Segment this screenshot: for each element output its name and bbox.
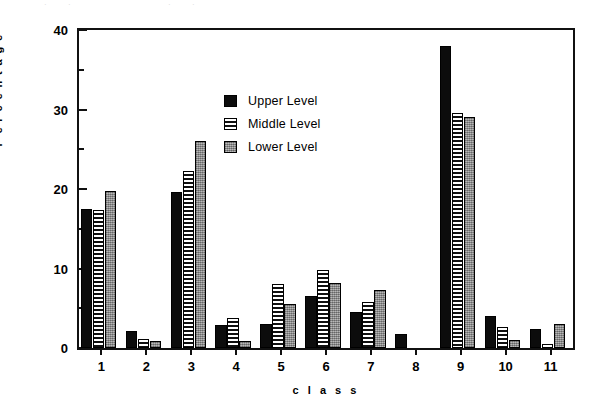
bar-group bbox=[485, 30, 521, 348]
x-tick-mark bbox=[145, 348, 147, 355]
x-tick-mark bbox=[460, 348, 462, 355]
bar bbox=[554, 324, 566, 348]
scan-artifact-mark: · bbox=[44, 0, 47, 9]
bar-group bbox=[395, 30, 431, 348]
legend-label: Middle Level bbox=[248, 117, 321, 131]
x-tick-label: 2 bbox=[143, 359, 150, 374]
chart-figure: ­···· P e r c e n t a g e 01020304012345… bbox=[0, 0, 595, 413]
bar bbox=[530, 329, 542, 348]
bar-group bbox=[260, 30, 296, 348]
legend: Upper LevelMiddle LevelLower Level bbox=[224, 94, 321, 154]
x-tick-label: 3 bbox=[188, 359, 195, 374]
bar bbox=[395, 334, 407, 348]
bar-group bbox=[215, 30, 251, 348]
legend-swatch-icon bbox=[224, 95, 237, 107]
legend-label: Upper Level bbox=[248, 94, 318, 108]
bar bbox=[126, 331, 138, 348]
bar bbox=[485, 316, 497, 348]
bar bbox=[464, 117, 476, 348]
x-tick-label: 1 bbox=[98, 359, 105, 374]
bar bbox=[272, 284, 284, 348]
x-tick-label: 10 bbox=[498, 359, 512, 374]
y-tick-label: 40 bbox=[21, 23, 79, 38]
bar bbox=[81, 209, 93, 348]
bar bbox=[350, 312, 362, 348]
bar bbox=[362, 302, 374, 348]
bar bbox=[284, 304, 296, 348]
bar bbox=[215, 325, 227, 348]
bar bbox=[329, 283, 341, 348]
y-axis-title: P e r c e n t a g e bbox=[0, 30, 4, 150]
bar-group bbox=[305, 30, 341, 348]
plot-frame: 0102030401234567891011 bbox=[77, 28, 575, 350]
bar bbox=[317, 270, 329, 348]
bar bbox=[542, 344, 554, 348]
x-tick-mark bbox=[505, 348, 507, 355]
legend-swatch-icon bbox=[224, 118, 237, 130]
x-axis-title: c l a s s bbox=[77, 384, 575, 396]
y-tick-label: 10 bbox=[21, 261, 79, 276]
x-tick-mark bbox=[370, 348, 372, 355]
x-tick-label: 8 bbox=[412, 359, 419, 374]
x-tick-mark bbox=[280, 348, 282, 355]
x-tick-mark bbox=[190, 348, 192, 355]
bar bbox=[183, 171, 195, 348]
bar bbox=[171, 192, 183, 348]
bar bbox=[452, 113, 464, 348]
y-tick-label: 30 bbox=[21, 102, 79, 117]
legend-item: Lower Level bbox=[224, 140, 321, 154]
bar-group bbox=[530, 30, 566, 348]
x-tick-mark bbox=[415, 348, 417, 355]
legend-item: Upper Level bbox=[224, 94, 321, 108]
bar bbox=[374, 290, 386, 348]
scan-artifact-mark: · bbox=[168, 0, 171, 9]
x-tick-mark bbox=[325, 348, 327, 355]
bar bbox=[150, 341, 162, 348]
bar bbox=[509, 340, 521, 348]
x-tick-mark bbox=[100, 348, 102, 355]
scan-artifact-mark: · bbox=[192, 0, 195, 9]
bar-group bbox=[440, 30, 476, 348]
y-tick-label: 20 bbox=[21, 182, 79, 197]
plot-area: 0102030401234567891011 bbox=[79, 30, 573, 348]
bar-group bbox=[81, 30, 117, 348]
bar bbox=[440, 46, 452, 348]
bar bbox=[138, 339, 150, 348]
y-tick-label: 0 bbox=[21, 341, 79, 356]
x-tick-label: 11 bbox=[544, 359, 558, 374]
bar-group bbox=[126, 30, 162, 348]
bar bbox=[260, 324, 272, 348]
bar bbox=[227, 318, 239, 348]
x-tick-label: 9 bbox=[457, 359, 464, 374]
bar bbox=[195, 141, 207, 348]
x-tick-label: 4 bbox=[233, 359, 240, 374]
legend-label: Lower Level bbox=[248, 140, 318, 154]
x-tick-label: 6 bbox=[322, 359, 329, 374]
bar bbox=[497, 327, 509, 348]
scan-artifact-mark: · bbox=[68, 0, 71, 9]
x-tick-mark bbox=[550, 348, 552, 355]
x-tick-label: 5 bbox=[277, 359, 284, 374]
x-tick-label: 7 bbox=[367, 359, 374, 374]
legend-item: Middle Level bbox=[224, 117, 321, 131]
bar-group bbox=[171, 30, 207, 348]
legend-swatch-icon bbox=[224, 141, 237, 153]
bar bbox=[93, 210, 105, 348]
bar bbox=[305, 296, 317, 348]
bar bbox=[239, 341, 251, 348]
scan-artifact-strip: ­···· bbox=[0, 0, 595, 12]
bar-group bbox=[350, 30, 386, 348]
bar bbox=[105, 191, 117, 348]
x-tick-mark bbox=[235, 348, 237, 355]
